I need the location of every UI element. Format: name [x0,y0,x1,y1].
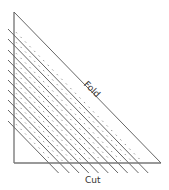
dashed-fold-line [16,63,111,161]
cut-label: Cut [85,175,101,185]
dashed-fold-line [16,32,141,161]
solid-cut-line [8,50,128,173]
dashed-fold-line [16,83,92,161]
dashed-fold-line [16,42,132,161]
dashed-fold-line [16,93,82,161]
triangle-diagram-canvas [0,0,169,190]
solid-cut-lines [8,29,148,173]
dashed-fold-line [16,113,63,161]
solid-cut-line [8,121,59,173]
solid-cut-line [8,39,139,173]
solid-cut-line [8,80,99,173]
dashed-fold-guides [16,32,141,161]
solid-cut-line [8,90,89,173]
